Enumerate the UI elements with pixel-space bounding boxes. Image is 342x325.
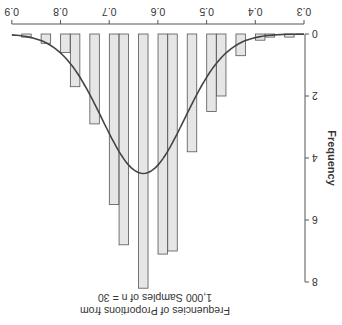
histogram-bar bbox=[207, 34, 217, 112]
chart-title-line-1: Frequencies of Proportions from bbox=[80, 305, 230, 317]
histogram-bar bbox=[119, 34, 129, 245]
y-axis: 02468 bbox=[305, 28, 318, 288]
x-tick-label: 0.9 bbox=[4, 6, 19, 18]
y-tick-label: 8 bbox=[312, 276, 318, 288]
histogram-bar bbox=[216, 34, 226, 96]
x-tick-label: 0.8 bbox=[53, 6, 68, 18]
histogram-bar bbox=[61, 34, 71, 53]
chart-title-line-2: 1,000 Samples of n = 30 bbox=[98, 292, 212, 304]
histogram-bar bbox=[109, 34, 119, 205]
chart-stage: 0.30.40.50.60.70.80.9 02468 Frequency Fr… bbox=[0, 0, 342, 325]
histogram-bars bbox=[22, 34, 294, 288]
histogram-bar bbox=[139, 34, 149, 288]
x-tick-label: 0.5 bbox=[199, 6, 214, 18]
x-tick-label: 0.6 bbox=[150, 6, 165, 18]
y-tick-label: 2 bbox=[312, 90, 318, 102]
y-axis-label: Frequency bbox=[326, 130, 338, 187]
y-tick-label: 6 bbox=[312, 214, 318, 226]
y-tick-label: 4 bbox=[312, 152, 318, 164]
histogram-chart: 0.30.40.50.60.70.80.9 02468 Frequency Fr… bbox=[0, 0, 342, 325]
x-axis: 0.30.40.50.60.70.80.9 bbox=[4, 6, 311, 24]
histogram-bar bbox=[187, 34, 197, 152]
histogram-bar bbox=[70, 34, 80, 87]
x-tick-label: 0.7 bbox=[102, 6, 117, 18]
x-tick-label: 0.4 bbox=[248, 6, 263, 18]
y-tick-label: 0 bbox=[312, 28, 318, 40]
x-tick-label: 0.3 bbox=[297, 6, 312, 18]
histogram-bar bbox=[158, 34, 168, 254]
